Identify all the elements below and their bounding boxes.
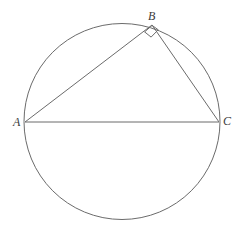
segment-bc	[152, 25, 219, 122]
geometry-canvas	[0, 0, 245, 234]
segment-ab	[25, 25, 152, 122]
vertex-label-c: C	[223, 115, 231, 127]
vertex-label-a: A	[13, 116, 20, 128]
vertex-label-b: B	[148, 10, 155, 22]
geometry-figure: A B C	[0, 0, 245, 234]
